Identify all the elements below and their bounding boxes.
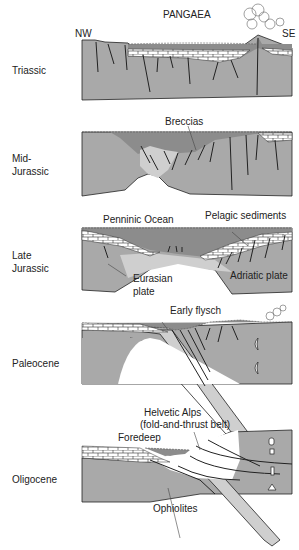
- label-eurasian-plate: plate: [133, 286, 155, 298]
- label-fold-thrust-belt: (fold-and-thrust belt): [140, 419, 230, 431]
- label-breccias: Breccias: [165, 116, 203, 128]
- volcano-plume-icon: [266, 305, 286, 320]
- stage-oligocene: Oligocene: [12, 474, 57, 486]
- label-adriatic-plate: Adriatic plate: [230, 270, 288, 282]
- stage-mid: Mid-: [12, 153, 31, 165]
- panel-oligocene: [82, 430, 292, 546]
- label-penninic-ocean: Penninic Ocean: [103, 214, 174, 226]
- stage-triassic: Triassic: [12, 65, 46, 77]
- label-early-flysch: Early flysch: [170, 305, 221, 317]
- label-ophiolites: Ophiolites: [153, 503, 197, 515]
- panel-mid-jurassic: [82, 126, 292, 196]
- stage-jurassic-2: Jurassic: [12, 263, 49, 275]
- stage-late: Late: [12, 250, 31, 262]
- label-foredeep: Foredeep: [118, 432, 161, 444]
- label-helvetic-alps: Helvetic Alps: [144, 407, 201, 419]
- stage-jurassic-1: Jurassic: [12, 166, 49, 178]
- panel-late-jurassic: [82, 228, 292, 294]
- label-pangaea: PANGAEA: [163, 9, 211, 21]
- label-pelagic-sediments: Pelagic sediments: [205, 210, 286, 222]
- label-nw: NW: [75, 28, 92, 40]
- stage-paleocene: Paleocene: [12, 358, 59, 370]
- label-eurasian: Eurasian: [133, 273, 172, 285]
- volcano-plume-icon: [244, 4, 284, 29]
- label-se: SE: [282, 28, 295, 40]
